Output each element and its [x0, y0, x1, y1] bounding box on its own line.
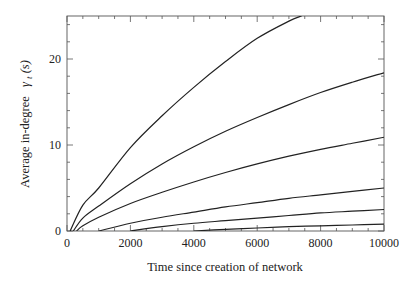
- series-curve-1: [70, 16, 301, 231]
- y-axis-title-main: Average in-degree: [18, 96, 32, 188]
- x-tick-label: 8000: [309, 236, 333, 250]
- y-axis-title-subscript: t: [24, 76, 34, 79]
- y-tick-label: 0: [55, 224, 61, 238]
- line-chart: 0200040006000800010000 01020 Time since …: [0, 0, 414, 281]
- x-axis-title: Time since creation of network: [147, 260, 303, 274]
- x-tick-labels: 0200040006000800010000: [64, 236, 399, 250]
- y-tick-label: 20: [49, 52, 61, 66]
- plot-frame: [67, 16, 384, 231]
- y-tick-labels: 01020: [49, 52, 61, 238]
- y-tick-label: 10: [49, 138, 61, 152]
- series-curve-4: [99, 188, 384, 231]
- y-axis-title-arg: (s): [18, 60, 32, 73]
- data-series: [70, 16, 384, 231]
- x-tick-label: 4000: [182, 236, 206, 250]
- y-axis-title-symbol: γ: [18, 81, 32, 87]
- x-tick-label: 10000: [369, 236, 399, 250]
- axis-ticks: [67, 16, 384, 231]
- plot-border: [67, 16, 384, 231]
- x-tick-label: 2000: [118, 236, 142, 250]
- y-axis-title: Average in-degree γ t (s): [18, 60, 35, 188]
- x-tick-label: 0: [64, 236, 70, 250]
- x-tick-label: 6000: [245, 236, 269, 250]
- series-curve-3: [77, 137, 384, 231]
